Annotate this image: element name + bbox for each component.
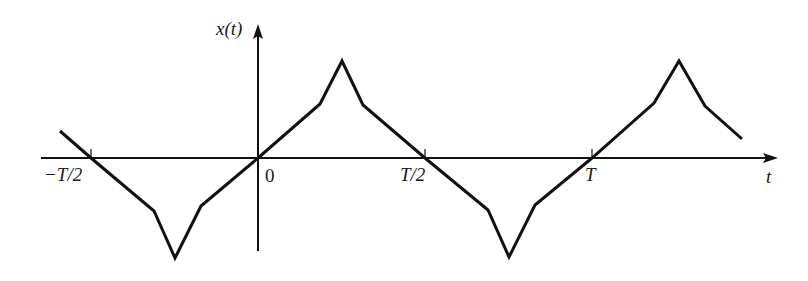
tick-label-half-period: T/2 bbox=[400, 165, 425, 184]
tick-label-zero: 0 bbox=[265, 166, 275, 185]
tick-label-neg-half-period: −T/2 bbox=[44, 165, 82, 184]
x-axis-label: t bbox=[766, 167, 771, 186]
signal-diagram: x(t) t −T/2 0 T/2 T bbox=[0, 0, 808, 281]
signal-waveform bbox=[60, 61, 742, 258]
y-axis-label: x(t) bbox=[216, 19, 242, 38]
tick-label-period: T bbox=[585, 165, 596, 184]
